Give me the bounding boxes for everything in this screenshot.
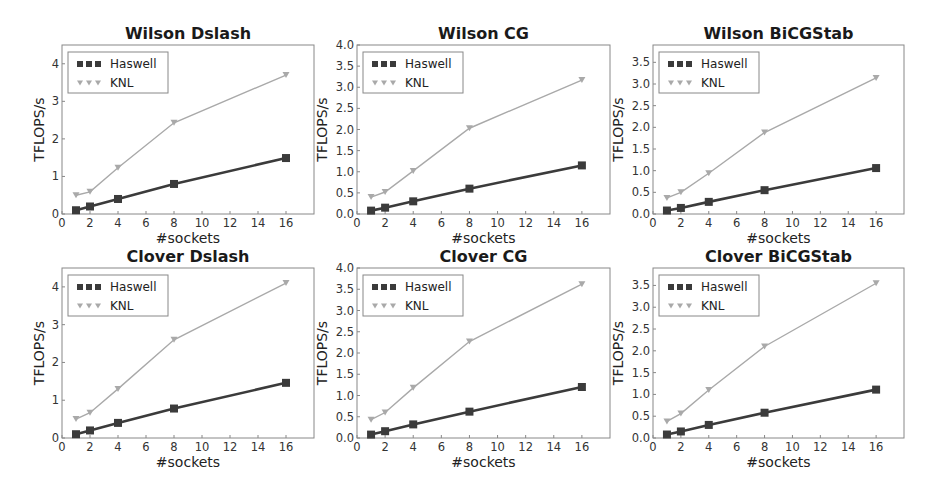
y-axis-label: TFLOPS/s xyxy=(31,321,47,386)
x-tick-label: 0 xyxy=(353,216,360,230)
x-tick-label: 6 xyxy=(733,216,740,230)
legend-label-knl: KNL xyxy=(701,299,725,313)
x-tick-label: 10 xyxy=(785,440,800,454)
y-tick-label: 1.5 xyxy=(632,142,650,156)
triangle-marker xyxy=(73,416,80,422)
square-marker xyxy=(578,161,586,169)
x-tick-label: 4 xyxy=(114,216,121,230)
square-marker xyxy=(72,430,80,438)
square-marker xyxy=(381,427,389,435)
square-marker xyxy=(705,198,713,206)
x-tick-label: 0 xyxy=(58,216,65,230)
legend-label-haswell: Haswell xyxy=(701,280,748,294)
y-tick-label: 3 xyxy=(52,318,59,332)
square-marker xyxy=(409,197,417,205)
series-line xyxy=(371,387,582,435)
panel-clover-dslash: Clover Dslash024681012141601234#socketsT… xyxy=(31,247,314,470)
y-tick-label: 0.5 xyxy=(632,185,650,199)
x-tick-label: 6 xyxy=(733,440,740,454)
x-tick-label: 16 xyxy=(575,440,590,454)
x-tick-label: 10 xyxy=(785,216,800,230)
x-tick-label: 2 xyxy=(677,216,684,230)
triangle-marker xyxy=(368,417,375,423)
series-haswell xyxy=(367,161,586,214)
y-tick-label: 2 xyxy=(52,132,59,146)
x-tick-label: 2 xyxy=(677,440,684,454)
triangle-marker xyxy=(87,410,94,416)
legend-label-knl: KNL xyxy=(110,299,134,313)
square-marker xyxy=(677,204,685,212)
square-marker-icon xyxy=(77,284,101,290)
y-tick-label: 3.5 xyxy=(336,282,354,296)
square-marker xyxy=(761,409,769,417)
square-marker xyxy=(170,180,178,188)
y-tick-label: 4 xyxy=(52,280,59,294)
series-line xyxy=(667,78,876,198)
triangle-marker xyxy=(382,189,389,195)
chart-title: Wilson BiCGStab xyxy=(703,24,853,43)
y-tick-label: 0 xyxy=(52,207,59,221)
y-tick-label: 0 xyxy=(52,431,59,445)
legend: HaswellKNL xyxy=(363,52,463,93)
square-marker xyxy=(170,405,178,413)
series-haswell xyxy=(72,154,290,214)
square-marker xyxy=(114,419,122,427)
square-marker xyxy=(578,383,586,391)
x-axis-label: #sockets xyxy=(156,230,220,246)
legend: HaswellKNL xyxy=(659,52,759,93)
x-tick-label: 16 xyxy=(575,216,590,230)
y-tick-label: 3.0 xyxy=(336,304,354,318)
y-tick-label: 2.0 xyxy=(632,344,650,358)
x-tick-label: 4 xyxy=(410,216,417,230)
triangle-marker xyxy=(382,410,389,416)
x-tick-label: 6 xyxy=(142,440,149,454)
legend: HaswellKNL xyxy=(68,275,168,316)
x-tick-label: 14 xyxy=(841,216,856,230)
x-tick-label: 10 xyxy=(195,216,210,230)
x-tick-label: 6 xyxy=(438,440,445,454)
x-tick-label: 4 xyxy=(410,440,417,454)
y-axis-label: TFLOPS/s xyxy=(314,97,330,162)
y-tick-label: 4 xyxy=(52,57,59,71)
triangle-marker xyxy=(677,189,684,195)
x-tick-label: 2 xyxy=(381,440,388,454)
y-tick-label: 4.0 xyxy=(336,261,354,275)
y-tick-label: 1.0 xyxy=(632,387,650,401)
legend-label-knl: KNL xyxy=(405,76,429,90)
square-marker xyxy=(663,431,671,439)
x-axis-label: #sockets xyxy=(451,454,515,470)
y-tick-label: 2.5 xyxy=(632,322,650,336)
y-tick-label: 2 xyxy=(52,355,59,369)
chart-title: Clover CG xyxy=(440,247,528,266)
y-axis-label: TFLOPS/s xyxy=(314,321,330,386)
y-tick-label: 0.5 xyxy=(632,409,650,423)
x-tick-label: 10 xyxy=(195,440,210,454)
x-tick-label: 16 xyxy=(869,440,884,454)
y-tick-label: 0.5 xyxy=(336,410,354,424)
triangle-marker xyxy=(578,281,585,287)
y-tick-label: 0.0 xyxy=(632,431,650,445)
triangle-marker xyxy=(663,195,670,201)
square-marker xyxy=(872,164,880,172)
square-marker xyxy=(761,186,769,194)
y-tick-label: 3.0 xyxy=(632,300,650,314)
square-marker-icon xyxy=(372,61,396,67)
legend: HaswellKNL xyxy=(659,275,759,316)
x-tick-label: 14 xyxy=(251,440,266,454)
chart-title: Wilson Dslash xyxy=(125,24,251,43)
triangle-marker xyxy=(283,280,290,286)
y-tick-label: 3 xyxy=(52,94,59,108)
y-tick-label: 3.5 xyxy=(632,278,650,292)
square-marker xyxy=(282,379,290,387)
triangle-marker xyxy=(578,77,585,83)
legend: HaswellKNL xyxy=(363,275,463,316)
y-tick-label: 2.0 xyxy=(336,123,354,137)
x-tick-label: 8 xyxy=(761,440,768,454)
series-haswell xyxy=(367,383,586,439)
square-marker-icon xyxy=(77,61,101,67)
square-marker xyxy=(465,408,473,416)
panel-clover-bicgstab: Clover BiCGStab02468101214160.00.51.01.5… xyxy=(610,247,904,470)
x-tick-label: 6 xyxy=(438,216,445,230)
y-tick-label: 1.5 xyxy=(336,367,354,381)
y-tick-label: 2.0 xyxy=(632,120,650,134)
